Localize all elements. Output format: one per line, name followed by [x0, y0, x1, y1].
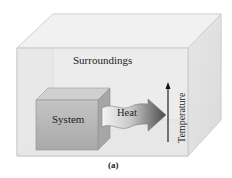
system-surroundings-diagram: Surroundings System Heat Temperature (a)	[0, 0, 232, 178]
surroundings-label: Surroundings	[73, 54, 132, 66]
figure-caption: (a)	[108, 160, 119, 170]
diagram-canvas	[0, 0, 232, 178]
temperature-label: Temperature	[176, 93, 187, 143]
heat-label: Heat	[117, 107, 137, 118]
system-label: System	[52, 113, 84, 125]
